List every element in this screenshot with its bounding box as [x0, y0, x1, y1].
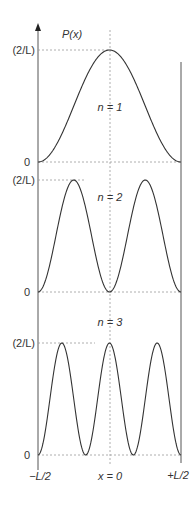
- x-label-center: x = 0: [97, 470, 123, 482]
- y-zero-label-1: 0: [24, 156, 30, 168]
- y-max-label-3: (2/L): [12, 337, 35, 349]
- x-label-left: −L/2: [29, 470, 51, 482]
- x-label-right: +L/2: [167, 469, 189, 481]
- n1-label: n = 1: [98, 101, 123, 113]
- curve-n3: [38, 343, 181, 455]
- y-max-label-1: (2/L): [12, 44, 35, 56]
- y-axis-arrow-icon: [35, 23, 41, 31]
- n2-label: n = 2: [98, 191, 123, 203]
- n3-label: n = 3: [98, 316, 124, 328]
- y-zero-label-3: 0: [24, 449, 30, 461]
- y-max-label-2: (2/L): [12, 174, 35, 186]
- y-zero-label-2: 0: [24, 286, 30, 298]
- y-axis-label: P(x): [62, 28, 83, 40]
- probability-density-diagram: P(x) (2/L) 0 (2/L) 0 (2/L) 0 n = 1 n = 2…: [0, 0, 196, 505]
